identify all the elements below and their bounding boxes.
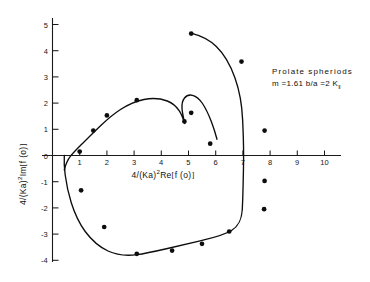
y-axis-ticks — [53, 25, 59, 261]
x-axis-ticks — [80, 151, 325, 156]
x-tick-label-1: 1 — [78, 158, 82, 167]
y-axis-title-bracket-close: ] — [18, 143, 28, 146]
data-point — [170, 248, 175, 253]
plot-canvas — [0, 0, 370, 282]
x-tick-label-10: 10 — [320, 158, 329, 167]
x-axis-title-middle: Re — [160, 170, 171, 180]
data-point — [262, 179, 267, 184]
data-point — [102, 225, 107, 230]
x-tick-label-4: 4 — [159, 158, 163, 167]
data-point — [91, 128, 96, 133]
annotation-line-2: m =1.61 b/a =2 K‖ — [272, 78, 353, 90]
y-axis-title-exponent: 2 — [16, 176, 23, 180]
y-tick-label-minus-3: -3 — [30, 230, 48, 239]
plot-annotation: Prolate spheriods m =1.61 b/a =2 K‖ — [272, 66, 353, 89]
annotation-parallel-subscript: ‖ — [338, 83, 341, 89]
y-axis-title-middle: Im — [18, 166, 28, 176]
x-axis-title-function: f (o) — [175, 170, 192, 180]
data-point — [239, 59, 244, 64]
x-axis-title-bracket-close: ] — [191, 170, 194, 180]
data-point — [77, 149, 82, 154]
y-tick-label-4: 4 — [34, 46, 48, 55]
y-tick-label-5: 5 — [34, 20, 48, 29]
data-point — [134, 251, 139, 256]
y-tick-label-minus-4: -4 — [30, 256, 48, 265]
data-point — [227, 229, 232, 234]
x-tick-label-7: 7 — [241, 158, 245, 167]
y-tick-label-3: 3 — [34, 72, 48, 81]
x-tick-label-9: 9 — [295, 158, 299, 167]
x-tick-label-2: 2 — [105, 158, 109, 167]
x-tick-label-8: 8 — [268, 158, 272, 167]
data-curves — [64, 33, 243, 255]
data-point — [208, 141, 213, 146]
y-tick-label-0: 0 — [34, 151, 48, 160]
figure-container: 1 2 3 4 5 6 7 8 9 10 5 4 3 2 1 0 -1 -2 -… — [0, 0, 370, 282]
y-axis-title-bracket-open: [ — [18, 163, 28, 166]
data-point — [200, 241, 205, 246]
x-tick-label-3: 3 — [132, 158, 136, 167]
x-tick-label-5: 5 — [186, 158, 190, 167]
x-axis-title: 4/(Ka)2 Re [f (o)] — [131, 170, 194, 180]
data-point — [189, 31, 194, 36]
data-point — [189, 110, 194, 115]
data-point — [134, 98, 139, 103]
data-point — [262, 128, 267, 133]
data-point — [79, 188, 84, 193]
y-axis-title-function: f (o) — [18, 147, 28, 164]
inner-branch-curve — [64, 95, 217, 170]
x-tick-label-6: 6 — [214, 158, 218, 167]
annotation-line-2-text: m =1.61 b/a =2 K — [272, 79, 338, 88]
y-axis-title: 4/(Ka)2 Im [f (o)] — [18, 143, 28, 205]
y-tick-label-minus-1: -1 — [30, 177, 48, 186]
x-axis-title-prefix: 4/(Ka) — [131, 170, 156, 180]
y-tick-label-1: 1 — [34, 125, 48, 134]
y-tick-label-2: 2 — [34, 99, 48, 108]
y-axis-title-prefix: 4/(Ka) — [18, 180, 28, 205]
data-point — [262, 207, 267, 212]
data-point — [105, 113, 110, 118]
y-tick-label-minus-2: -2 — [30, 203, 48, 212]
outer-branch-curve — [64, 33, 243, 255]
data-point — [182, 119, 187, 124]
annotation-line-1: Prolate spheriods — [272, 66, 353, 78]
